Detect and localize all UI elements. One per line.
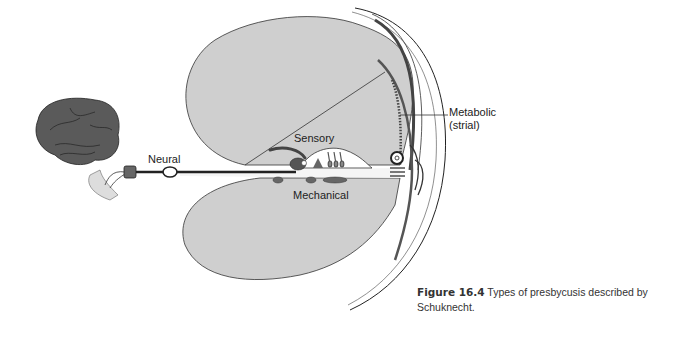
label-neural: Neural [148, 153, 180, 166]
label-sensory: Sensory [294, 132, 334, 145]
figure-number: Figure 16.4 [417, 286, 485, 298]
nerve-connector [124, 166, 136, 178]
caption-line2: Schuknecht. [417, 301, 475, 313]
brain-illustration [36, 98, 119, 200]
label-strial: (strial) [449, 119, 480, 132]
caption-line1: Types of presbycusis described by [487, 286, 648, 298]
nerve-ganglion [163, 167, 177, 177]
scala-tympani [183, 178, 400, 280]
label-mechanical: Mechanical [293, 189, 349, 202]
label-metabolic: Metabolic [449, 106, 496, 119]
figure-caption: Figure 16.4 Types of presbycusis describ… [417, 285, 682, 315]
